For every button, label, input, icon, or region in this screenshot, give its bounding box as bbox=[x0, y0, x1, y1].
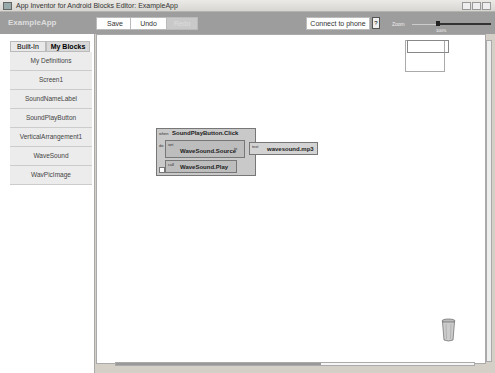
trash-icon[interactable] bbox=[441, 318, 456, 342]
tab-my-blocks[interactable]: My Blocks bbox=[46, 41, 90, 52]
method-name: WaveSound.Play bbox=[180, 164, 228, 170]
window-title: App Inventor for Android Blocks Editor: … bbox=[16, 2, 178, 9]
drawer-item-wavesound[interactable]: WaveSound bbox=[10, 147, 92, 166]
call-label: call bbox=[168, 162, 174, 167]
drawer-item-soundnamelabel[interactable]: SoundNameLabel bbox=[10, 90, 92, 109]
when-label: when bbox=[159, 131, 169, 136]
event-name: SoundPlayButton.Click bbox=[172, 130, 238, 136]
text-value: wavesound.mp3 bbox=[267, 146, 314, 152]
setter-name: WaveSound.Source bbox=[180, 148, 236, 154]
drawer-item-verticalarrangement1[interactable]: VerticalArrangement1 bbox=[10, 128, 92, 147]
zoom-percent: 100% bbox=[436, 28, 446, 33]
tab-built-in[interactable]: Built-In bbox=[10, 41, 46, 52]
phone-status-icon[interactable]: ? bbox=[372, 17, 380, 29]
drawer-item-soundplaybutton[interactable]: SoundPlayButton bbox=[10, 109, 92, 128]
drawer-item-wavpicimage[interactable]: WavPicImage bbox=[10, 166, 92, 185]
maximize-button[interactable] bbox=[472, 2, 481, 10]
collapse-checkbox[interactable] bbox=[159, 167, 165, 173]
window-title-bar: App Inventor for Android Blocks Editor: … bbox=[0, 0, 495, 12]
to-label: to bbox=[234, 146, 237, 151]
drawer-item-screen1[interactable]: Screen1 bbox=[10, 71, 92, 90]
redo-button[interactable]: Redo bbox=[166, 17, 198, 30]
vertical-scrollbar[interactable] bbox=[486, 40, 492, 362]
text-block-wavesound-mp3[interactable]: text wavesound.mp3 bbox=[249, 142, 318, 155]
text-label: text bbox=[252, 144, 258, 149]
toolbar: ExampleApp Save Undo Redo Connect to pho… bbox=[0, 12, 495, 34]
minimize-button[interactable] bbox=[462, 2, 471, 10]
undo-button[interactable]: Undo bbox=[130, 17, 167, 30]
do-label: do bbox=[159, 143, 163, 148]
blocks-workspace[interactable] bbox=[96, 34, 486, 364]
close-button[interactable] bbox=[482, 2, 491, 10]
save-button[interactable]: Save bbox=[96, 17, 134, 30]
blocks-drawer-panel: Built-In My Blocks My Definitions Screen… bbox=[0, 34, 95, 373]
app-name: ExampleApp bbox=[8, 18, 56, 27]
horizontal-scrollbar[interactable] bbox=[115, 362, 475, 366]
minimap-viewport[interactable] bbox=[407, 40, 449, 53]
app-icon bbox=[3, 2, 12, 10]
zoom-slider-knob[interactable] bbox=[436, 21, 440, 26]
set-block-wavesound-source[interactable]: set WaveSound.Source to bbox=[165, 140, 245, 158]
zoom-slider-fill bbox=[438, 23, 491, 25]
call-block-wavesound-play[interactable]: call WaveSound.Play bbox=[165, 160, 237, 173]
drawer-item-my-definitions[interactable]: My Definitions bbox=[10, 52, 92, 71]
horizontal-scroll-thumb[interactable] bbox=[116, 363, 321, 365]
zoom-label: Zoom bbox=[392, 21, 405, 27]
connect-to-phone-button[interactable]: Connect to phone bbox=[306, 17, 370, 30]
set-label: set bbox=[168, 142, 173, 147]
